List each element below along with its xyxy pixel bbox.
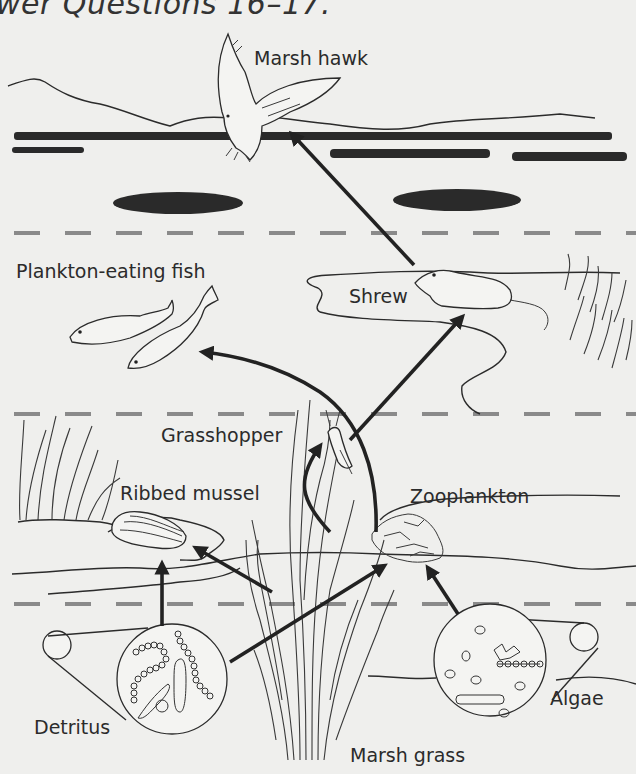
label-marsh-grass: Marsh grass (350, 746, 465, 765)
right-grass-clump (565, 254, 632, 368)
label-algae: Algae (550, 689, 604, 708)
arrow-grass-to-grasshopper (304, 446, 330, 532)
marsh-grass-drawing (246, 400, 394, 760)
arrow-grasshopper-to-shrew (350, 317, 462, 440)
water-line-lower (48, 568, 240, 594)
label-ribbed-mussel: Ribbed mussel (120, 484, 260, 503)
food-web-arrows (162, 134, 462, 662)
arrow-algae-to-zooplankton (428, 568, 458, 614)
food-web-diagram: wer Questions 16–17. (0, 0, 636, 774)
label-plankton-eating-fish: Plankton-eating fish (16, 262, 206, 281)
water-line-upper (12, 553, 636, 575)
label-detritus: Detritus (34, 718, 110, 737)
label-grasshopper: Grasshopper (161, 426, 282, 445)
label-zooplankton: Zooplankton (410, 487, 529, 506)
marsh-grass-strips (12, 132, 627, 214)
diagram-artwork (0, 0, 636, 774)
ribbed-mussel-drawing (112, 512, 186, 549)
plankton-eating-fish-drawing (70, 286, 218, 369)
label-marsh-hawk: Marsh hawk (254, 49, 368, 68)
label-shrew: Shrew (349, 287, 408, 306)
